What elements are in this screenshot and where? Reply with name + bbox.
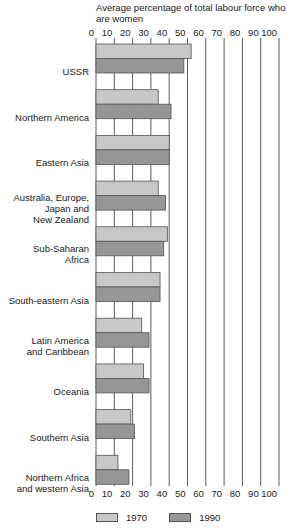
top-tick-label-80: 80	[230, 27, 241, 38]
category-label-3: New Zealand	[33, 214, 89, 225]
bottom-tick-label-20: 20	[120, 488, 131, 499]
category-label-4: Sub-Saharan	[33, 243, 89, 254]
bottom-tick-label-10: 10	[102, 488, 113, 499]
bar-1970-1	[96, 90, 158, 105]
bar-1970-5	[96, 273, 160, 288]
legend-item-1970: 1970	[96, 512, 147, 523]
category-label-5: South-eastern Asia	[9, 295, 90, 306]
bar-1990-2	[96, 150, 169, 165]
bar-1970-6	[96, 318, 142, 333]
top-tick-label-70: 70	[212, 27, 223, 38]
category-label-3: Japan and	[45, 203, 89, 214]
bottom-tick-label-50: 50	[175, 488, 186, 499]
legend-label-1970: 1970	[126, 512, 147, 523]
bar-chart: 0102030405060708090100 01020304050607080…	[0, 0, 287, 532]
bar-1990-7	[96, 378, 149, 393]
bar-1990-0	[96, 59, 184, 74]
bar-1970-0	[96, 44, 191, 59]
bottom-tick-label-40: 40	[157, 488, 168, 499]
bottom-tick-label-30: 30	[138, 488, 149, 499]
top-tick-label-60: 60	[193, 27, 204, 38]
bar-1970-2	[96, 135, 169, 150]
top-tick-label-50: 50	[175, 27, 186, 38]
bottom-tick-label-70: 70	[212, 488, 223, 499]
legend: 1970 1990	[96, 512, 242, 523]
bottom-tick-label-80: 80	[230, 488, 241, 499]
category-label-3: Australia, Europe,	[13, 192, 89, 203]
top-tick-labels: 0102030405060708090100	[89, 27, 277, 38]
bottom-tick-labels: 0102030405060708090100	[89, 488, 277, 499]
category-label-6: Latin America	[31, 335, 89, 346]
bar-1970-8	[96, 410, 131, 425]
category-label-9: and western Asia	[17, 483, 90, 494]
top-tick-label-90: 90	[248, 27, 259, 38]
top-tick-label-40: 40	[157, 27, 168, 38]
bar-1970-7	[96, 364, 144, 379]
bottom-tick-label-60: 60	[193, 488, 204, 499]
category-labels: USSRNorthern AmericaEastern AsiaAustrali…	[9, 66, 90, 494]
top-tick-label-0: 0	[89, 27, 94, 38]
bar-1970-3	[96, 181, 158, 196]
category-label-1: Northern America	[15, 112, 90, 123]
category-label-9: Northern Africa	[26, 472, 90, 483]
bar-1990-3	[96, 196, 166, 211]
bottom-tick-label-0: 0	[89, 488, 94, 499]
top-tick-label-20: 20	[120, 27, 131, 38]
category-label-8: Southern Asia	[30, 432, 90, 443]
bar-1990-4	[96, 241, 164, 256]
category-label-6: and Caribbean	[27, 346, 89, 357]
bar-1990-6	[96, 333, 149, 348]
bar-1990-5	[96, 287, 160, 302]
bar-1990-8	[96, 424, 134, 439]
top-tick-label-10: 10	[102, 27, 113, 38]
bottom-tick-label-100: 100	[261, 488, 277, 499]
bar-1970-9	[96, 455, 118, 470]
bar-1990-1	[96, 104, 171, 119]
category-label-4: Africa	[65, 254, 90, 265]
top-tick-label-30: 30	[138, 27, 149, 38]
category-label-7: Oceania	[54, 386, 90, 397]
bars	[96, 44, 191, 484]
category-label-2: Eastern Asia	[36, 157, 90, 168]
legend-item-1990: 1990	[169, 512, 220, 523]
bottom-tick-label-90: 90	[248, 488, 259, 499]
category-label-0: USSR	[63, 66, 90, 77]
top-tick-label-100: 100	[261, 27, 277, 38]
legend-label-1990: 1990	[199, 512, 220, 523]
bar-1990-9	[96, 470, 129, 485]
legend-swatch-1970	[96, 513, 118, 522]
legend-swatch-1990	[169, 513, 191, 522]
bar-1970-4	[96, 227, 167, 242]
